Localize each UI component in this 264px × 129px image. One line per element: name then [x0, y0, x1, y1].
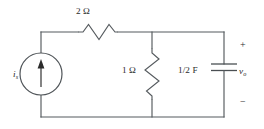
shunt-resistor-label: 1 Ω	[122, 66, 136, 75]
current-source-label: is	[13, 70, 18, 79]
output-voltage-label: vo	[239, 67, 246, 76]
polarity-plus-sign: +	[240, 40, 246, 50]
series-resistor-zigzag	[78, 25, 118, 40]
series-resistor-label: 2 Ω	[76, 7, 90, 16]
capacitor-label: 1/2 F	[178, 66, 198, 75]
shunt-resistor-zigzag	[145, 48, 159, 100]
polarity-minus-sign: −	[240, 97, 246, 107]
circuit-diagram: 2 Ω 1 Ω 1/2 F is vo + −	[0, 0, 264, 129]
current-source-label-subscript: s	[16, 73, 19, 80]
output-voltage-label-subscript: o	[243, 70, 246, 77]
